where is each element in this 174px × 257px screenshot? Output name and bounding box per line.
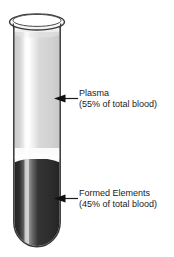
formed-elements-label-title: Formed Elements (79, 188, 157, 199)
test-tube (10, 14, 65, 250)
plasma-callout-label: Plasma (55% of total blood) (79, 88, 157, 110)
tube-contents (11, 28, 63, 250)
tube-opening (13, 14, 61, 26)
formed-elements-layer (13, 159, 61, 249)
test-tube-illustration (0, 0, 174, 257)
formed-elements-label-percent: (45% of total blood) (79, 199, 157, 210)
glass-highlight-stripe (25, 32, 29, 250)
rim-right-neck (60, 24, 61, 29)
plasma-layer (13, 32, 61, 158)
plasma-label-percent: (55% of total blood) (79, 99, 157, 110)
blood-composition-diagram: Plasma (55% of total blood) Formed Eleme… (0, 0, 174, 257)
formed-elements-callout-label: Formed Elements (45% of total blood) (79, 188, 157, 210)
plasma-label-title: Plasma (79, 88, 157, 99)
rim-left-neck (13, 24, 14, 29)
